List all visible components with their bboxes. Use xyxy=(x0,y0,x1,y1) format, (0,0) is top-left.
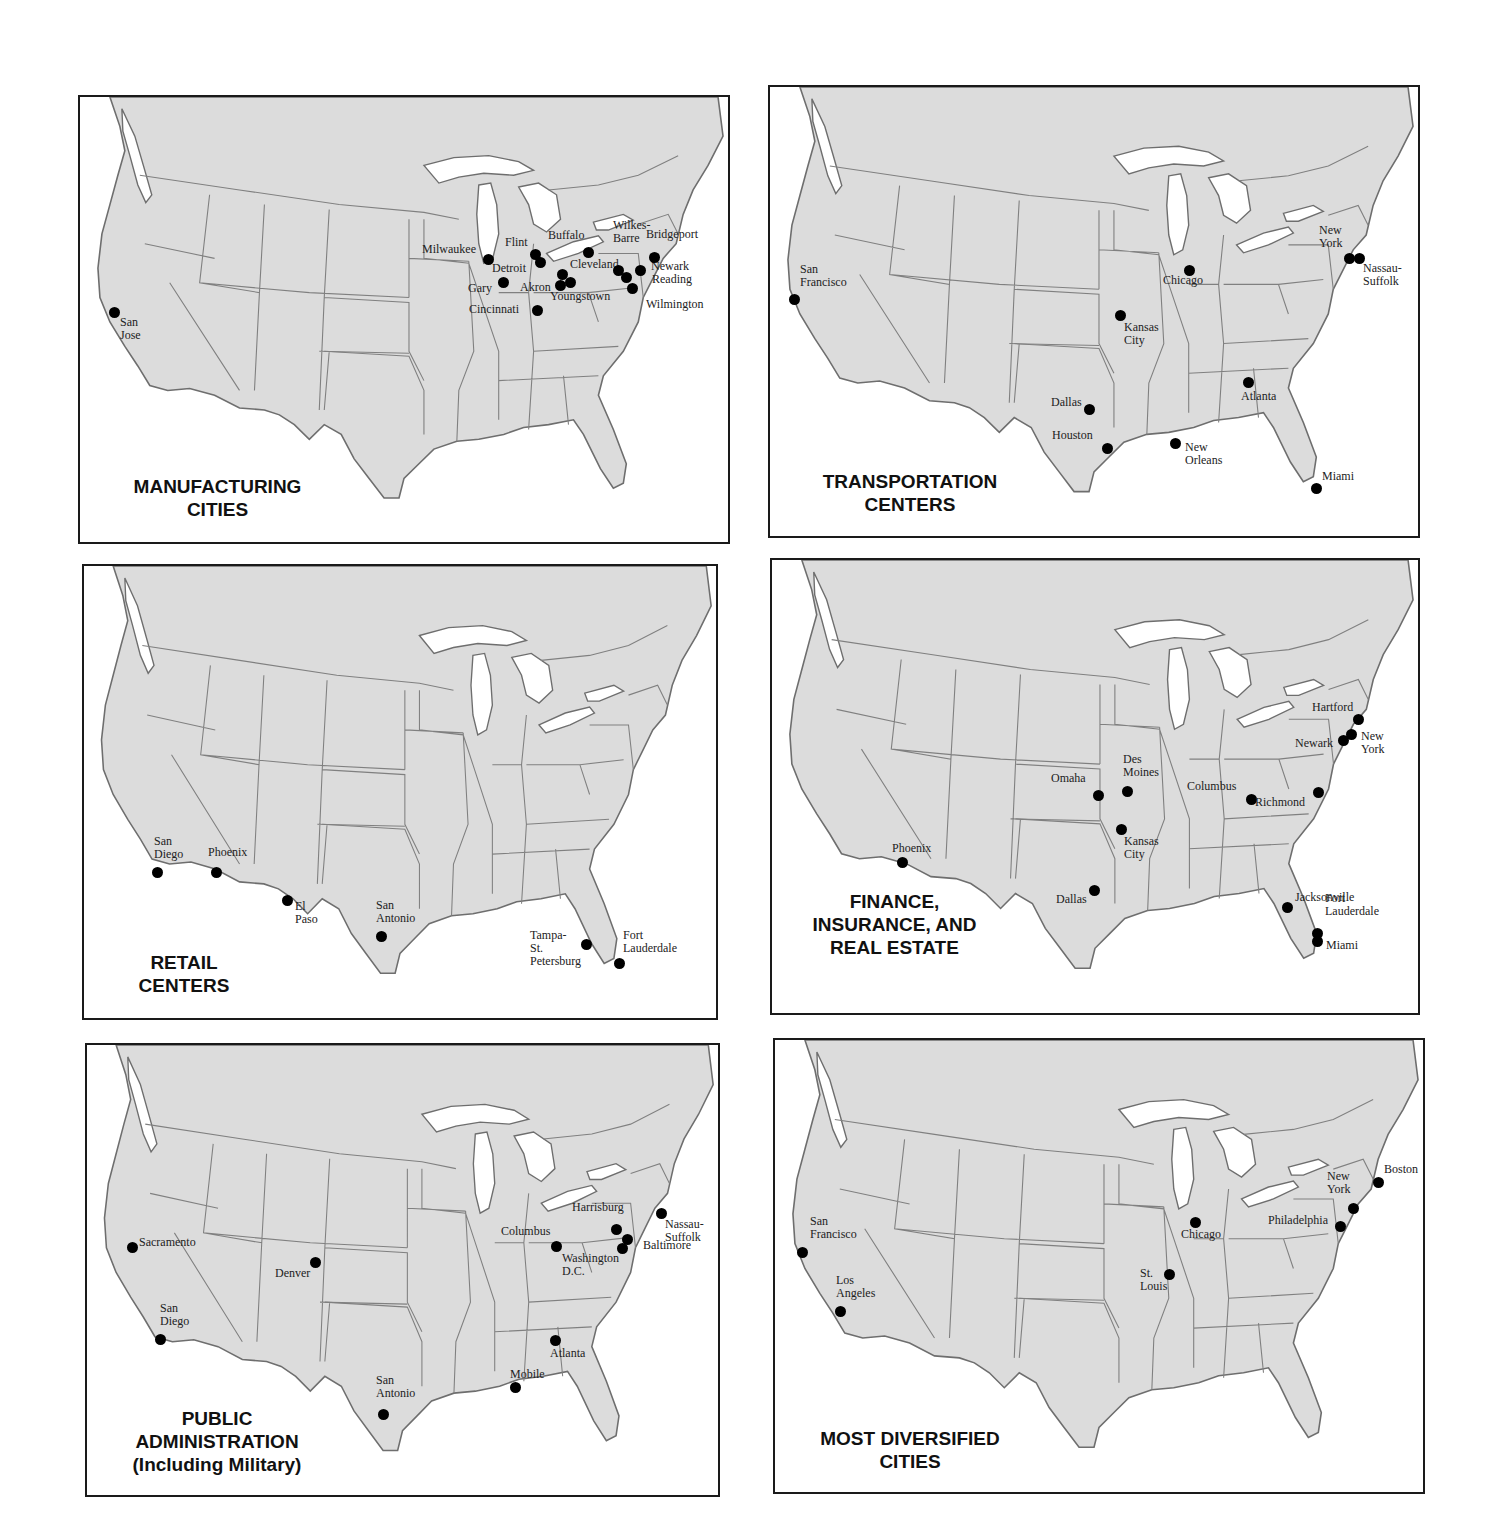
city-label: Cleveland xyxy=(570,258,619,271)
city-dot-icon xyxy=(378,1409,389,1420)
city-dot-icon xyxy=(1170,438,1181,449)
city-dot-icon xyxy=(835,1306,846,1317)
city-dot-icon xyxy=(127,1242,138,1253)
city-label: Des Moines xyxy=(1123,753,1159,779)
city-label: Kansas City xyxy=(1124,835,1159,861)
land-mass xyxy=(788,87,1413,492)
city-label: Denver xyxy=(275,1267,310,1280)
city-label: Dallas xyxy=(1056,893,1087,906)
city-dot-icon xyxy=(1116,824,1127,835)
city-label: San Antonio xyxy=(376,1374,415,1400)
land-mass xyxy=(793,1040,1418,1447)
city-dot-icon xyxy=(1346,729,1357,740)
city-label: Detroit xyxy=(492,262,526,275)
city-label: Washington D.C. xyxy=(562,1252,619,1278)
city-label: Boston xyxy=(1384,1163,1418,1176)
city-label: Richmond xyxy=(1255,796,1305,809)
city-dot-icon xyxy=(1282,902,1293,913)
city-label: Chicago xyxy=(1163,274,1203,287)
city-label: Columbus xyxy=(1187,780,1236,793)
city-dot-icon xyxy=(1089,885,1100,896)
city-label: Hartford xyxy=(1312,701,1353,714)
city-label: San Francisco xyxy=(810,1215,857,1241)
city-dot-icon xyxy=(1335,1221,1346,1232)
us-base-map xyxy=(770,87,1418,536)
city-label: Houston xyxy=(1052,429,1093,442)
city-label: Atlanta xyxy=(550,1347,585,1360)
city-label: Harrisburg xyxy=(572,1201,624,1214)
city-dot-icon xyxy=(1093,790,1104,801)
city-label: Omaha xyxy=(1051,772,1086,785)
city-label: Mobile xyxy=(510,1368,545,1381)
city-label: San Diego xyxy=(154,835,183,861)
panel-title: FINANCE, INSURANCE, AND REAL ESTATE xyxy=(782,890,1007,959)
city-dot-icon xyxy=(1344,253,1355,264)
city-label: New Orleans xyxy=(1185,441,1222,467)
city-dot-icon xyxy=(109,307,120,318)
city-label: Bridgeport xyxy=(646,228,698,241)
city-label: St. Louis xyxy=(1140,1267,1167,1293)
city-dot-icon xyxy=(532,305,543,316)
city-label: Atlanta xyxy=(1241,390,1276,403)
city-dot-icon xyxy=(211,867,222,878)
city-dot-icon xyxy=(1311,483,1322,494)
city-label: Gary xyxy=(468,282,492,295)
city-dot-icon xyxy=(1348,1203,1359,1214)
city-dot-icon xyxy=(1312,936,1323,947)
panel-title: PUBLIC ADMINISTRATION (Including Militar… xyxy=(112,1407,322,1476)
city-label: San Jose xyxy=(120,316,141,342)
map-panel-transportation: TRANSPORTATION CENTERSSan FranciscoKansa… xyxy=(768,85,1420,538)
map-panel-diversified: MOST DIVERSIFIED CITIESSan FranciscoLos … xyxy=(773,1038,1425,1494)
map-panel-public-admin: PUBLIC ADMINISTRATION (Including Militar… xyxy=(85,1043,720,1497)
city-dot-icon xyxy=(565,277,576,288)
city-dot-icon xyxy=(551,1241,562,1252)
city-dot-icon xyxy=(1313,787,1324,798)
city-dot-icon xyxy=(789,294,800,305)
city-dot-icon xyxy=(310,1257,321,1268)
city-label: San Francisco xyxy=(800,263,847,289)
city-label: Newark xyxy=(1295,737,1333,750)
city-dot-icon xyxy=(376,931,387,942)
city-label: Fort Lauderdale xyxy=(1325,892,1379,918)
city-dot-icon xyxy=(583,247,594,258)
city-dot-icon xyxy=(1122,786,1133,797)
city-dot-icon xyxy=(155,1334,166,1345)
city-label: Milwaukee xyxy=(422,243,476,256)
city-dot-icon xyxy=(1084,404,1095,415)
city-dot-icon xyxy=(498,277,509,288)
city-label: Cincinnati xyxy=(469,303,519,316)
city-dot-icon xyxy=(1373,1177,1384,1188)
city-dot-icon xyxy=(510,1382,521,1393)
city-label: Columbus xyxy=(501,1225,550,1238)
city-label: Nassau- Suffolk xyxy=(1363,262,1402,288)
map-panel-retail: RETAIL CENTERSSan DiegoPhoenixEl PasoSan… xyxy=(82,564,718,1020)
city-label: Fort Lauderdale xyxy=(623,929,677,955)
panel-title: MOST DIVERSIFIED CITIES xyxy=(795,1427,1025,1473)
city-dot-icon xyxy=(611,1224,622,1235)
city-label: Chicago xyxy=(1181,1228,1221,1241)
city-label: Wilmington xyxy=(646,298,704,311)
city-label: San Antonio xyxy=(376,899,415,925)
city-dot-icon xyxy=(1102,443,1113,454)
city-label: Flint xyxy=(505,236,528,249)
city-label: Tampa- St. Petersburg xyxy=(530,929,586,968)
city-label: San Diego xyxy=(160,1302,189,1328)
panel-title: RETAIL CENTERS xyxy=(114,951,254,997)
city-label: Dallas xyxy=(1051,396,1082,409)
city-label: Philadelphia xyxy=(1268,1214,1328,1227)
city-label: El Paso xyxy=(295,900,318,926)
city-label: Phoenix xyxy=(208,846,247,859)
panel-title: MANUFACTURING CITIES xyxy=(100,475,335,521)
city-label: Nassau- Suffolk xyxy=(665,1218,704,1244)
city-label: Phoenix xyxy=(892,842,931,855)
city-dot-icon xyxy=(897,857,908,868)
city-label: Buffalo xyxy=(548,229,584,242)
map-panel-manufacturing: MANUFACTURING CITIESSan JoseMilwaukeeGar… xyxy=(78,95,730,544)
city-label: Miami xyxy=(1326,939,1358,952)
map-panel-finance: FINANCE, INSURANCE, AND REAL ESTATEPhoen… xyxy=(770,558,1420,1015)
city-dot-icon xyxy=(635,265,646,276)
city-label: Miami xyxy=(1322,470,1354,483)
city-label: Youngstown xyxy=(550,290,610,303)
city-dot-icon xyxy=(621,272,632,283)
city-dot-icon xyxy=(649,252,660,263)
